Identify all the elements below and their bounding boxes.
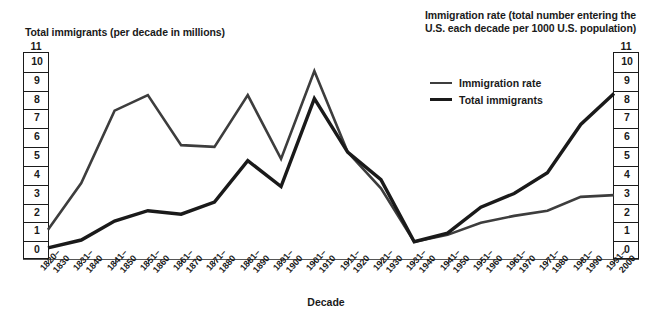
left-axis-top-tick-label: 11 xyxy=(23,40,49,52)
right-axis-top-tick-label: 11 xyxy=(613,40,639,52)
plot-area xyxy=(23,52,639,259)
legend-swatch-immigration-rate xyxy=(430,82,452,84)
legend-label-immigration-rate: Immigration rate xyxy=(459,77,541,89)
x-axis-title: Decade xyxy=(0,296,652,308)
left-axis-title: Total immigrants (per decade in millions… xyxy=(25,26,225,39)
right-axis-title: Immigration rate (total number entering … xyxy=(425,9,640,34)
chart-legend: Immigration rate Total immigrants xyxy=(430,74,543,108)
legend-label-total-immigrants: Total immigrants xyxy=(459,94,543,106)
legend-item-total-immigrants: Total immigrants xyxy=(430,91,543,108)
line-total-immigrants xyxy=(48,93,614,247)
immigration-chart-figure: Total immigrants (per decade in millions… xyxy=(0,0,652,316)
legend-item-immigration-rate: Immigration rate xyxy=(430,74,543,91)
legend-swatch-total-immigrants xyxy=(430,98,452,101)
series-lines xyxy=(23,52,639,259)
